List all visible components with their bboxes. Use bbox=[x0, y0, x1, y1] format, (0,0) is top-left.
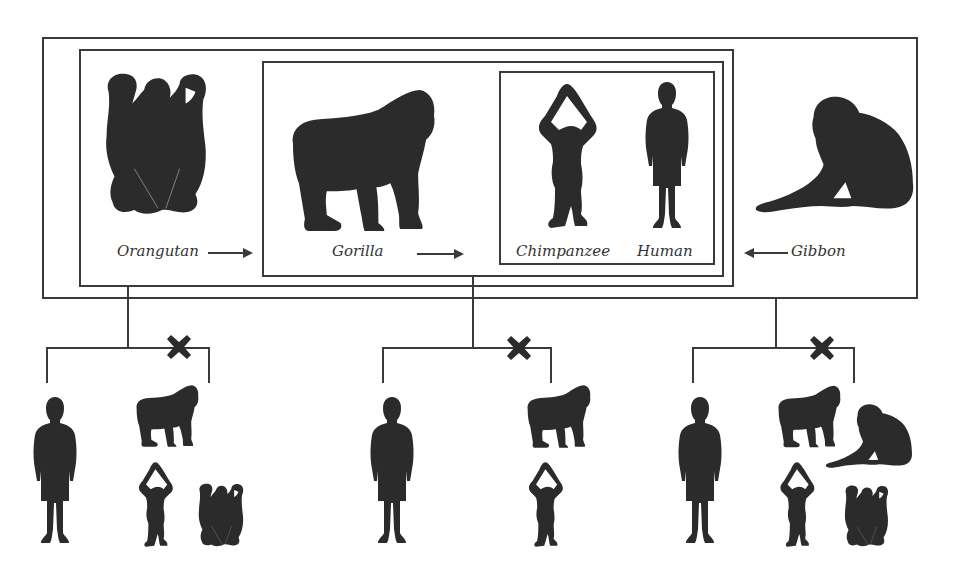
stem-right bbox=[775, 298, 777, 349]
phylogeny-diagram: Orangutan Gorilla Chimpanzee Human Gibbo… bbox=[0, 0, 957, 567]
gorilla-silhouette-icon bbox=[134, 383, 199, 449]
chimpanzee-silhouette-icon bbox=[527, 461, 565, 548]
chimpanzee-silhouette-icon bbox=[779, 461, 816, 548]
gorilla-silhouette-icon bbox=[525, 383, 591, 450]
exclusion-x-icon bbox=[506, 335, 532, 361]
exclusion-x-icon bbox=[809, 335, 835, 361]
label-orangutan: Orangutan bbox=[117, 242, 199, 260]
orangutan-silhouette-icon bbox=[187, 482, 254, 548]
orangutan-silhouette-icon bbox=[832, 484, 900, 548]
chimpanzee-silhouette-icon bbox=[137, 461, 175, 548]
stem-left bbox=[127, 286, 129, 349]
gibbon-silhouette-icon bbox=[754, 95, 917, 214]
branch-leg-left bbox=[382, 347, 384, 383]
label-gorilla: Gorilla bbox=[332, 242, 384, 260]
human-silhouette-icon bbox=[369, 397, 415, 545]
chimpanzee-silhouette-icon bbox=[537, 82, 599, 230]
label-chimpanzee: Chimpanzee bbox=[516, 242, 610, 260]
arrow-right-icon bbox=[417, 249, 464, 259]
branch-leg-right bbox=[208, 347, 210, 383]
stem-middle bbox=[472, 276, 474, 349]
human-silhouette-icon bbox=[678, 397, 722, 545]
branch-leg-right bbox=[550, 347, 552, 383]
orangutan-silhouette-icon bbox=[100, 70, 210, 218]
gibbon-silhouette-icon bbox=[825, 402, 914, 470]
exclusion-x-icon bbox=[166, 334, 192, 360]
gorilla-silhouette-icon bbox=[286, 88, 437, 233]
human-silhouette-icon bbox=[33, 397, 77, 545]
branch-leg-left bbox=[46, 347, 48, 383]
arrow-left-icon bbox=[744, 248, 788, 258]
label-human: Human bbox=[637, 242, 693, 260]
arrow-right-icon bbox=[208, 248, 253, 258]
human-silhouette-icon bbox=[645, 82, 689, 230]
branch-leg-left bbox=[692, 347, 694, 383]
branch-leg-right bbox=[853, 347, 855, 383]
label-gibbon: Gibbon bbox=[791, 242, 846, 260]
